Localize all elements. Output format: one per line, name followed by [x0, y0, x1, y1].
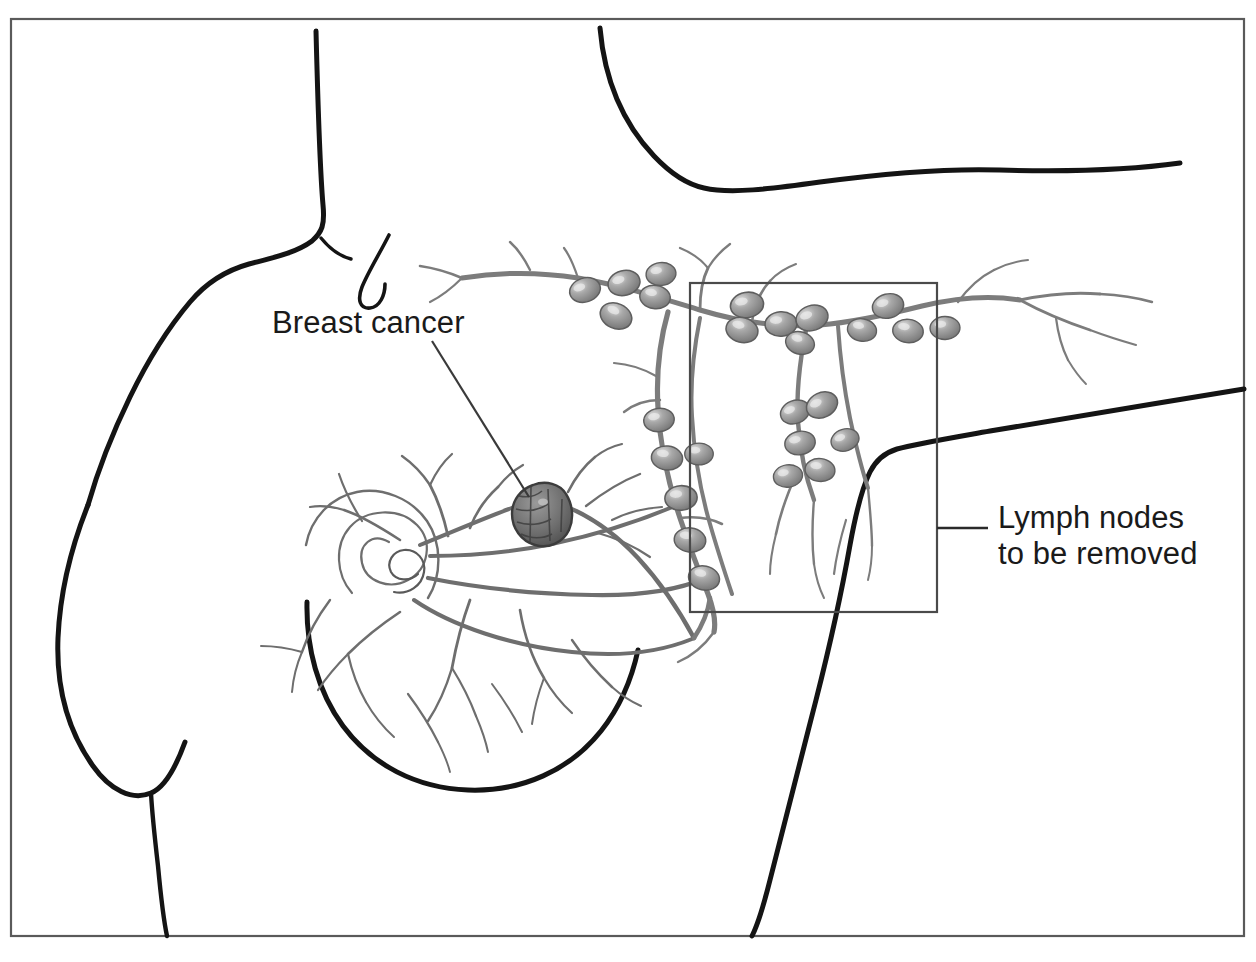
shoulder-crease-line — [321, 238, 351, 259]
breast-cancer-leader-line — [432, 341, 529, 497]
neck-and-shoulder-outline — [88, 31, 324, 505]
breast-tumor — [512, 483, 572, 546]
breast-cancer-label: Breast cancer — [272, 305, 465, 340]
lymph-nodes-label-line1: Lymph nodes — [998, 500, 1184, 535]
far-breast-contour — [58, 505, 185, 796]
body-outline-group — [58, 28, 1244, 936]
lymphatic-vessel-network — [420, 242, 1152, 662]
illustration-canvas: Breast cancer Lymph nodes to be removed — [0, 0, 1256, 962]
raised-arm-underside — [600, 28, 1180, 191]
far-breast-underline — [151, 793, 167, 936]
lymph-nodes-label-line2: to be removed — [998, 536, 1197, 571]
tumor-drainage-vessel — [694, 598, 710, 638]
breast-cancer-lymph-node-figure: Breast cancer Lymph nodes to be removed — [0, 0, 1256, 962]
armpit-crease-hook — [360, 235, 389, 308]
breast-duct-system — [261, 444, 706, 772]
illustration-border — [11, 19, 1244, 936]
axillary-descending-chain-2 — [838, 326, 868, 488]
